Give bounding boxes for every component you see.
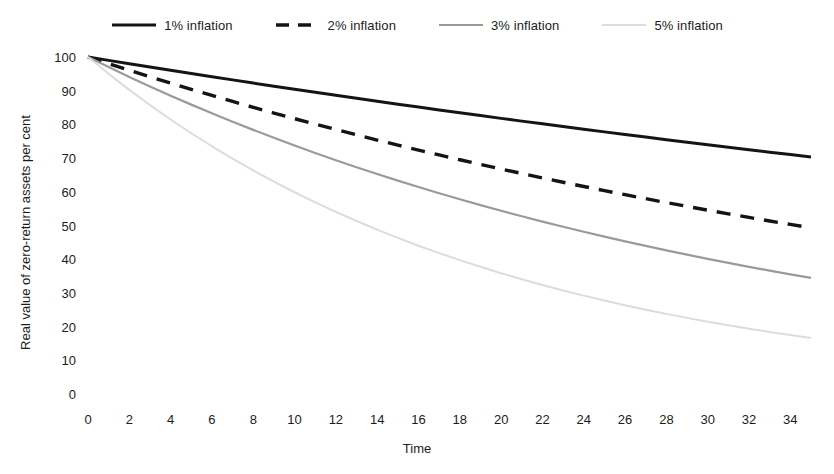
x-tick-label: 10 [280,412,310,427]
x-tick-label: 6 [197,412,227,427]
x-tick-label: 34 [775,412,805,427]
chart-page: 1% inflation 2% inflation 3% inflation 5… [0,0,834,474]
x-tick-label: 20 [486,412,516,427]
x-tick-label: 14 [362,412,392,427]
y-tick-label: 100 [36,50,76,65]
x-tick-label: 16 [404,412,434,427]
plot-area: 0102030405060708090100 02468101214161820… [0,0,834,474]
y-tick-label: 30 [36,285,76,300]
x-tick-label: 28 [651,412,681,427]
series-line-5-inflation [88,57,811,338]
chart-canvas [0,0,834,474]
series-line-3-inflation [88,57,811,278]
x-axis-title: Time [0,441,834,456]
x-tick-label: 2 [114,412,144,427]
x-tick-label: 32 [734,412,764,427]
x-tick-label: 4 [156,412,186,427]
y-tick-label: 80 [36,117,76,132]
y-axis-title: Real value of zero-return assets per cen… [18,68,33,398]
y-tick-label: 20 [36,319,76,334]
y-tick-label: 10 [36,353,76,368]
x-tick-label: 18 [445,412,475,427]
y-tick-label: 90 [36,83,76,98]
y-tick-label: 50 [36,218,76,233]
x-tick-label: 30 [693,412,723,427]
x-tick-label: 24 [569,412,599,427]
x-tick-label: 22 [527,412,557,427]
series-line-2-inflation [88,57,811,228]
x-tick-label: 26 [610,412,640,427]
y-tick-label: 60 [36,184,76,199]
x-tick-label: 8 [238,412,268,427]
y-tick-label: 70 [36,151,76,166]
y-tick-label: 0 [36,387,76,402]
y-tick-label: 40 [36,252,76,267]
x-tick-label: 0 [73,412,103,427]
x-tick-label: 12 [321,412,351,427]
